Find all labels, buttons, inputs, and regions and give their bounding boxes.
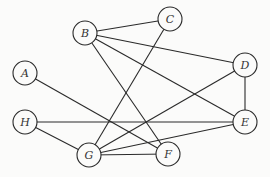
node-label: D — [240, 59, 250, 72]
node-h: H — [13, 110, 37, 134]
edge-b-e — [85, 33, 245, 122]
node-a: A — [13, 61, 37, 85]
node-d: D — [233, 53, 257, 77]
edge-b-f — [85, 33, 168, 154]
node-label: B — [80, 27, 89, 40]
edge-b-c — [85, 19, 170, 33]
graph-diagram: ABCDEFGH — [0, 0, 270, 177]
node-label: A — [20, 67, 29, 80]
edge-c-g — [89, 19, 170, 155]
node-g: G — [77, 143, 101, 167]
node-label: H — [19, 116, 30, 129]
node-label: F — [163, 148, 172, 161]
node-c: C — [158, 7, 182, 31]
node-e: E — [233, 110, 257, 134]
node-f: F — [156, 142, 180, 166]
edges-layer — [25, 19, 245, 155]
node-label: C — [166, 13, 175, 26]
edge-b-d — [85, 33, 245, 65]
node-label: G — [85, 149, 94, 162]
node-label: E — [240, 116, 249, 129]
node-b: B — [73, 21, 97, 45]
